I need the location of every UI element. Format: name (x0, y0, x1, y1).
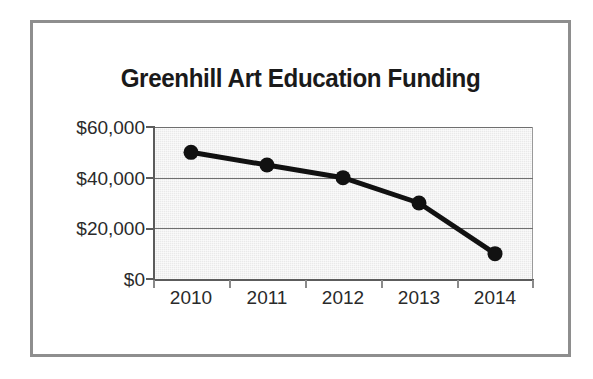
y-axis-line (153, 126, 155, 281)
y-axis: $60,000 $40,000 $20,000 $0 (38, 0, 145, 379)
figure-container: Greenhill Art Education Funding $60,000 … (0, 0, 593, 379)
x-tick-label-2014: 2014 (457, 287, 533, 309)
x-tick-label-2010: 2010 (153, 287, 229, 309)
series-line-art-education-funding (191, 152, 495, 253)
x-tick-label-2013: 2013 (381, 287, 457, 309)
data-point-2010 (184, 145, 199, 160)
x-axis-line (153, 279, 534, 281)
plot-area (153, 127, 533, 279)
y-tick-label-0: $0 (45, 270, 145, 289)
data-point-2014 (488, 246, 503, 261)
series-line-group (153, 127, 533, 279)
data-point-2011 (260, 158, 275, 173)
x-tick-label-2011: 2011 (229, 287, 305, 309)
data-point-2012 (336, 170, 351, 185)
x-tick-label-2012: 2012 (305, 287, 381, 309)
series-markers (184, 145, 503, 261)
y-tick-label-20000: $20,000 (45, 219, 145, 238)
data-point-2013 (412, 196, 427, 211)
y-tick-label-60000: $60,000 (45, 118, 145, 137)
y-tick-label-40000: $40,000 (45, 169, 145, 188)
